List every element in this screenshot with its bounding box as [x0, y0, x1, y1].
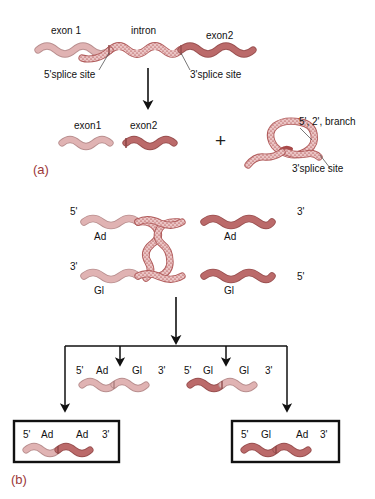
panel-a-label: (a) — [33, 163, 49, 176]
product-exon2-label: exon2 — [130, 121, 157, 131]
product-left-three-prime-label: 3' — [102, 430, 109, 440]
intermediate-left-five-prime-label: 5' — [76, 366, 83, 376]
splicing-figure: exon 1 intron exon2 5'splice site 3'spli… — [0, 0, 375, 499]
product-right-five-prime-label: 5' — [241, 430, 248, 440]
intermediate-right-first-gene-label: Gl — [203, 366, 213, 376]
product-left-five-prime-label: 5' — [23, 430, 30, 440]
product-right-first-gene-label: Gl — [261, 430, 271, 440]
product-strand-left — [26, 446, 90, 454]
intermediate-right-three-prime-label: 3' — [265, 366, 272, 376]
plus-sign: + — [215, 131, 226, 150]
product-strand-right — [244, 446, 308, 454]
product-box-left — [14, 421, 119, 462]
distribution-bracket — [65, 346, 287, 408]
intron-bridge-right-fill — [157, 222, 178, 276]
five-prime-splice-site-label: 5'splice site — [44, 70, 95, 80]
intermediate-left-second-gene-label: Gl — [132, 366, 142, 376]
intermediate-right-second-gene-label: Gl — [239, 366, 249, 376]
product-left-first-gene-label: Ad — [41, 430, 53, 440]
product-exon1-label: exon1 — [74, 121, 101, 131]
panel-a-precursor-strand — [38, 45, 253, 70]
panel-b-label: (b) — [11, 473, 27, 486]
bottom-strand-left-gene-label: Gl — [94, 286, 104, 296]
exon2-strand-fill — [181, 46, 253, 54]
product-left-second-gene-label: Ad — [76, 430, 88, 440]
intermediate-left-three-prime-label: 3' — [158, 366, 165, 376]
lariat-structure — [248, 121, 330, 168]
intermediate-strand-right — [190, 381, 254, 389]
intermediate-strand-left — [82, 381, 146, 389]
lariat-three-prime-splice-site-label: 3'splice site — [292, 164, 343, 174]
intermediate-right-five-prime-label: 5' — [184, 366, 191, 376]
intermediate-left-first-gene-label: Ad — [96, 366, 108, 376]
exon2-label: exon2 — [206, 31, 233, 41]
exon1-strand-fill — [38, 46, 110, 54]
product-box-right — [232, 421, 339, 462]
bottom-strand-right-gene-label: Gl — [224, 286, 234, 296]
exon1-label: exon 1 — [51, 26, 81, 36]
top-strand-left-gene-label: Ad — [94, 232, 106, 242]
product-right-second-gene-label: Ad — [296, 430, 308, 440]
lariat-tail-right-fill — [286, 152, 319, 157]
product-right-three-prime-label: 3' — [320, 430, 327, 440]
bottom-strand-three-prime-label: 3' — [70, 262, 77, 272]
intron-strand-fill — [110, 46, 180, 54]
panel-b-substrate — [84, 219, 272, 280]
panel-a-spliced-product — [62, 138, 174, 148]
three-prime-splice-site-label: 3'splice site — [190, 70, 241, 80]
bottom-strand-five-prime-label: 5' — [297, 272, 304, 282]
top-strand-right-gene-label: Ad — [224, 232, 236, 242]
top-strand-three-prime-label: 3' — [297, 207, 304, 217]
intron-label: intron — [131, 26, 156, 36]
lariat-branch-label: 5', 2', branch — [299, 117, 356, 127]
top-strand-five-prime-label: 5' — [70, 207, 77, 217]
three-prime-leader-line — [181, 53, 190, 70]
